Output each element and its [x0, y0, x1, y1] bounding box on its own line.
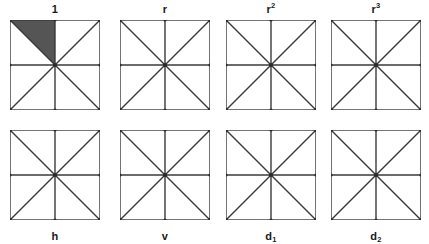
midpoint-marker-left: [331, 63, 333, 66]
midpoint-marker-left: [10, 63, 12, 66]
square-reflection-horizontal: [10, 130, 100, 220]
center-marker: [163, 173, 167, 177]
center-marker: [374, 173, 378, 177]
midpoint-marker-left: [10, 173, 12, 176]
square-svg-rotation-180: [226, 20, 316, 110]
midpoint-marker-left: [331, 173, 333, 176]
symmetry-cell-reflection-diagonal-1: d1: [226, 128, 316, 244]
midpoint-marker-left: [120, 63, 122, 66]
midpoint-marker-top: [374, 130, 377, 132]
symmetry-cell-rotation-180: r2: [226, 0, 316, 120]
square-svg-reflection-diagonal-1: [226, 130, 316, 220]
cell-label-base: r: [163, 3, 167, 15]
symmetry-cell-identity: 1: [10, 0, 100, 120]
midpoint-marker-bottom: [53, 108, 56, 110]
midpoint-marker-right: [314, 63, 316, 66]
midpoint-marker-left: [120, 173, 122, 176]
midpoint-marker-right: [98, 63, 100, 66]
symmetry-cell-rotation-270: r3: [331, 0, 421, 120]
midpoint-marker-left: [226, 173, 228, 176]
square-reflection-diagonal-2: [331, 130, 421, 220]
symmetry-cell-rotation-90: r: [120, 0, 210, 120]
midpoint-marker-top: [53, 130, 56, 132]
midpoint-marker-right: [419, 173, 421, 176]
midpoint-marker-bottom: [163, 218, 166, 220]
midpoint-marker-top: [163, 130, 166, 132]
center-marker: [53, 173, 57, 177]
symmetry-cell-reflection-vertical: v: [120, 128, 210, 244]
cell-label-reflection-diagonal-2: d2: [331, 230, 421, 242]
center-marker: [374, 63, 378, 67]
square-svg-rotation-270: [331, 20, 421, 110]
midpoint-marker-bottom: [53, 218, 56, 220]
square-svg-rotation-90: [120, 20, 210, 110]
midpoint-marker-bottom: [269, 108, 272, 110]
midpoint-marker-top: [163, 20, 166, 22]
center-marker: [269, 63, 273, 67]
square-reflection-vertical: [120, 130, 210, 220]
cell-label-rotation-270: r3: [331, 3, 421, 15]
midpoint-marker-bottom: [163, 108, 166, 110]
midpoint-marker-top: [269, 20, 272, 22]
midpoint-marker-top: [269, 130, 272, 132]
center-marker: [163, 63, 167, 67]
square-svg-reflection-vertical: [120, 130, 210, 220]
square-svg-identity: [10, 20, 100, 110]
square-identity: [10, 20, 100, 110]
square-svg-reflection-horizontal: [10, 130, 100, 220]
center-marker: [269, 173, 273, 177]
midpoint-marker-left: [226, 63, 228, 66]
midpoint-marker-right: [419, 63, 421, 66]
square-rotation-270: [331, 20, 421, 110]
square-reflection-diagonal-1: [226, 130, 316, 220]
cell-label-base: v: [162, 230, 168, 242]
midpoint-marker-right: [314, 173, 316, 176]
cell-label-reflection-vertical: v: [120, 230, 210, 242]
midpoint-marker-bottom: [269, 218, 272, 220]
midpoint-marker-right: [98, 173, 100, 176]
midpoint-marker-right: [208, 63, 210, 66]
symmetry-cell-reflection-diagonal-2: d2: [331, 128, 421, 244]
center-marker: [53, 63, 57, 67]
cell-label-subscript: 1: [272, 235, 276, 244]
square-rotation-90: [120, 20, 210, 110]
cell-label-rotation-90: r: [120, 3, 210, 15]
square-rotation-180: [226, 20, 316, 110]
cell-label-base: h: [52, 230, 59, 242]
symmetry-figure: 1 r: [0, 0, 429, 244]
cell-label-superscript: 2: [271, 1, 275, 10]
midpoint-marker-right: [208, 173, 210, 176]
cell-label-subscript: 2: [377, 235, 381, 244]
cell-label-reflection-horizontal: h: [10, 230, 100, 242]
symmetry-cell-reflection-horizontal: h: [10, 128, 100, 244]
midpoint-marker-top: [374, 20, 377, 22]
cell-label-identity: 1: [10, 3, 100, 15]
cell-label-base: 1: [52, 3, 58, 15]
midpoint-marker-bottom: [374, 108, 377, 110]
square-svg-reflection-diagonal-2: [331, 130, 421, 220]
midpoint-marker-bottom: [374, 218, 377, 220]
cell-label-superscript: 3: [376, 1, 380, 10]
cell-label-reflection-diagonal-1: d1: [226, 230, 316, 242]
cell-label-rotation-180: r2: [226, 3, 316, 15]
